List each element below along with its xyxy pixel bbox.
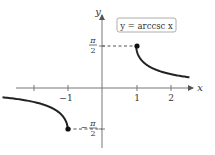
svg-text:−: − [81, 123, 88, 132]
y-tick-label-neg-pi-over-2: − π 2 [81, 119, 97, 138]
svg-text:π: π [89, 36, 96, 45]
svg-text:π: π [89, 119, 96, 128]
y-tick-label-pi-over-2: π 2 [89, 36, 97, 55]
equation-legend: y = arccsc x [117, 18, 176, 32]
endpoint-top [134, 43, 139, 48]
tick-label-1: 1 [134, 93, 140, 103]
curve-left-branch [3, 97, 68, 129]
curve-right-branch [136, 46, 189, 77]
x-axis-label: x [197, 82, 203, 93]
svg-text:2: 2 [90, 46, 95, 55]
endpoint-bottom [65, 126, 70, 131]
svg-text:2: 2 [90, 129, 95, 138]
y-axis-label: y [94, 6, 101, 17]
arccsc-graph: y x −1 1 2 π 2 − π 2 y = arccsc x [0, 0, 215, 155]
equation-text: y = arccsc x [119, 21, 173, 31]
tick-label-neg1: −1 [59, 93, 72, 103]
tick-label-2: 2 [168, 93, 174, 103]
